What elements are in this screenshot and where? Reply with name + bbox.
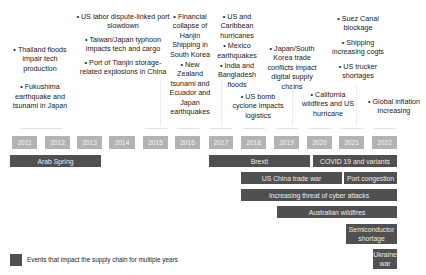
year-2012: 2012 [45,136,70,149]
bar-arab-spring: Arab Spring [10,155,101,167]
connector-2022 [374,128,396,131]
event-text: Suez Canal blockage [330,14,386,33]
connector-2019 [276,128,298,131]
event-text: Global inflation increasing [364,97,424,116]
event-text: US and Caribbean hurricanes [213,12,261,40]
event-text: US trucker shortages [330,62,386,81]
legend-label: Events that impact the supply chain for … [27,256,178,263]
event-text: US labor dispute-linked port slowdown [75,12,171,31]
event-text: Fukushima earthquake and tsunami in Japa… [12,82,68,110]
events-2021: Suez Canal blockage Shipping increasing … [330,14,386,84]
event-text: Mexico earthquakes [213,41,261,60]
event-text: Thailand floods impair tech production [12,45,68,73]
event-text: New Zealand tsunami and Ecuador and Japa… [168,60,212,116]
divider-line [221,80,222,126]
year-2017: 2017 [209,136,233,149]
bar-covid: COVID 19 and variants [313,155,397,167]
events-2015: US labor dispute-linked port slowdown Ta… [75,12,171,80]
event-text: Financial collapse of Hanjin Shipping in… [168,12,212,59]
event-text: Taiwan/Japan typhoon impacts tech and ca… [75,35,171,54]
legend-swatch [10,254,22,266]
bar-port-congestion: Port congestion [344,172,397,184]
year-2013: 2013 [77,136,102,149]
connector-2018 [243,128,265,131]
connector-2011 [20,128,62,131]
bar-ukraine-war: Ukraine war [373,249,397,269]
divider-line [292,84,293,126]
events-2018: US bomb cyclone impacts logistics [231,92,285,124]
divider-line [356,84,357,126]
bar-cyber-attacks: Increasing threat of cyber attacks [241,189,397,201]
bar-brexit: Brexit [209,155,310,167]
bar-semiconductor-shortage: Semiconductor shortage [346,224,397,244]
year-2022: 2022 [372,136,397,149]
events-2011: Thailand floods impair tech production F… [12,45,68,114]
divider-line [160,80,161,126]
event-text: Shipping increasing cogts [330,38,386,57]
year-2011: 2011 [12,136,37,149]
year-2018: 2018 [241,136,266,149]
year-2020: 2020 [307,136,332,149]
event-text: Port of Tianjin storage-related explosio… [75,58,171,77]
year-2016: 2016 [175,136,200,149]
connector-2021 [341,128,363,131]
connector-2017 [210,128,232,131]
bar-us-china-trade-war: US China trade war [241,172,342,184]
events-2016: Financial collapse of Hanjin Shipping in… [168,12,212,120]
connector-2015 [145,128,167,131]
event-text: California wildfires and US hurricane [300,90,356,118]
year-2019: 2019 [274,136,299,149]
year-2014: 2014 [109,136,135,149]
connector-2016 [177,128,199,131]
events-2020: California wildfires and US hurricane [300,90,356,122]
connector-2020 [309,128,331,131]
event-text: US bomb cyclone impacts logistics [231,92,285,120]
bar-australian-wildfires: Australian wildfires [277,206,397,218]
events-2022: Global inflation increasing [364,97,424,120]
year-2021: 2021 [339,136,364,149]
year-2015: 2015 [143,136,168,149]
